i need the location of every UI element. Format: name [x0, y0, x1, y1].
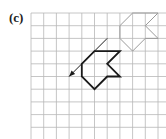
translation-arrow: [69, 38, 107, 76]
translation-diagram: [0, 0, 166, 139]
original-shape: [120, 13, 158, 51]
translated-shape: [82, 51, 120, 89]
square-grid: [31, 13, 166, 139]
